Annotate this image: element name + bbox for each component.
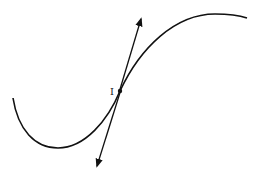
inflection-point bbox=[118, 89, 122, 93]
s-curve bbox=[13, 14, 247, 148]
diagram-canvas: I bbox=[0, 0, 261, 173]
tangent-line-lower bbox=[97, 91, 121, 166]
point-label: I bbox=[110, 86, 114, 97]
tangent-line bbox=[120, 19, 142, 91]
